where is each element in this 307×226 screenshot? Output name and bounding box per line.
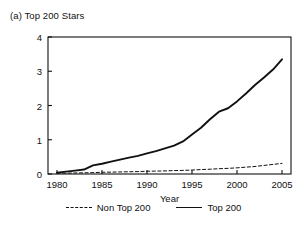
- x-tick-label: 2000: [226, 179, 247, 190]
- y-tick-label: 4: [24, 32, 42, 43]
- legend-item-non-top-200: Non Top 200: [66, 203, 151, 213]
- legend-solid-line-icon: [176, 207, 202, 208]
- y-tick-label: 1: [24, 134, 42, 145]
- y-axis-ticks: [48, 37, 52, 174]
- plot-frame: [48, 37, 291, 174]
- y-tick-label: 3: [24, 66, 42, 77]
- legend-dashed-line-icon: [66, 207, 92, 208]
- y-tick-label: 0: [24, 169, 42, 180]
- x-tick-label: 2005: [271, 179, 292, 190]
- legend-item-top-200: Top 200: [176, 203, 241, 213]
- x-tick-label: 1980: [46, 179, 67, 190]
- chart-legend: Non Top 200 Top 200: [0, 203, 307, 213]
- series-lines: [57, 59, 282, 173]
- x-tick-label: 1985: [91, 179, 112, 190]
- y-tick-label: 2: [24, 100, 42, 111]
- series-line: [57, 59, 282, 172]
- line-chart: [0, 0, 307, 226]
- legend-label: Non Top 200: [97, 203, 151, 213]
- x-tick-label: 1995: [181, 179, 202, 190]
- x-tick-label: 1990: [136, 179, 157, 190]
- series-line: [57, 163, 282, 173]
- legend-label: Top 200: [207, 203, 241, 213]
- figure-panel: (a) Top 200 Stars 0123419801985199019952…: [0, 0, 307, 226]
